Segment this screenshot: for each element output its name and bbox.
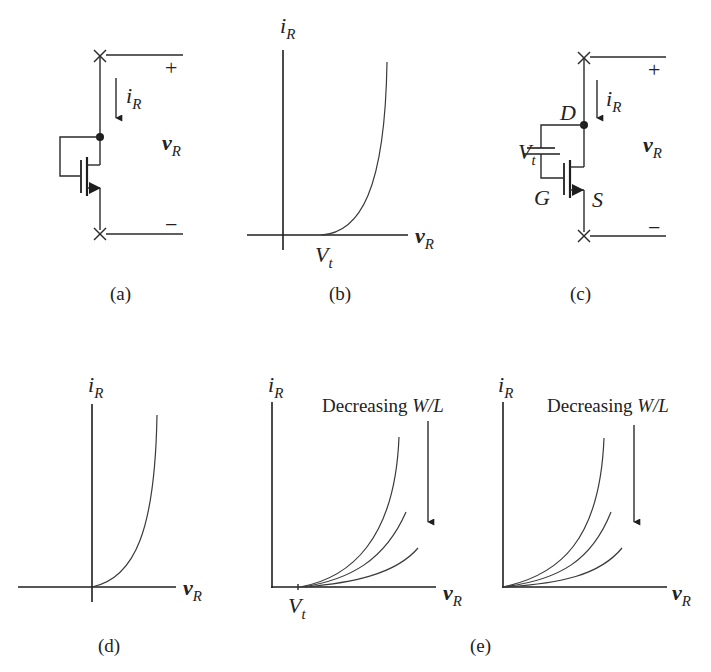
x-axis-label: vR	[443, 580, 462, 609]
y-axis-label: iR	[498, 372, 513, 401]
gate-drain-connection	[60, 137, 100, 176]
curve-high-wl	[300, 437, 399, 587]
panel-d-plot: iR vR (d)	[18, 372, 202, 657]
panel-b-plot: iR vR Vt (b)	[247, 13, 434, 305]
panel-c-circuit: iR D Vt G S + vR − (c)	[518, 52, 666, 305]
caption-b: (b)	[329, 283, 351, 305]
plus-sign: +	[648, 57, 660, 82]
iv-curve	[92, 415, 157, 587]
x-axis-label: vR	[183, 575, 202, 604]
curve-mid-wl	[302, 512, 406, 587]
mosfet-icon	[564, 160, 584, 198]
minus-sign: −	[165, 212, 177, 237]
caption-d: (d)	[98, 635, 120, 657]
battery-to-gate-wire	[541, 154, 563, 178]
threshold-label: Vt	[315, 242, 333, 271]
panel-a-circuit: iR + vR − (a)	[60, 50, 183, 305]
drain-label: D	[559, 100, 576, 125]
y-axis-label: iR	[88, 372, 103, 401]
annotation-decreasing-wl: Decreasing W/L	[322, 395, 444, 416]
current-label: iR	[606, 86, 621, 115]
caption-c: (c)	[570, 283, 591, 305]
current-label: iR	[126, 83, 141, 112]
annotation-decreasing-wl: Decreasing W/L	[547, 395, 669, 416]
source-label: S	[592, 187, 603, 212]
caption-e: (e)	[470, 635, 491, 657]
caption-a: (a)	[110, 283, 131, 305]
voltage-label: vR	[162, 130, 181, 159]
plus-sign: +	[165, 55, 177, 80]
minus-sign: −	[648, 215, 660, 240]
iv-curve	[321, 62, 387, 235]
voltage-label: vR	[643, 132, 662, 161]
battery-label: Vt	[518, 139, 536, 168]
panel-e-left-plot: iR vR Vt Decreasing W/L	[268, 372, 462, 622]
figure-canvas: iR + vR − (a) iR vR Vt (b)	[0, 0, 711, 672]
y-axis-label: iR	[280, 13, 295, 42]
gate-label: G	[534, 185, 550, 210]
curve-low-wl	[503, 548, 622, 587]
curve-mid-wl	[503, 512, 611, 587]
threshold-label: Vt	[288, 593, 306, 622]
curve-high-wl	[503, 438, 604, 587]
panel-e-right-plot: iR vR Decreasing W/L	[498, 372, 691, 609]
x-axis-label: vR	[672, 580, 691, 609]
drain-to-battery-wire	[541, 125, 584, 148]
y-axis-label: iR	[268, 372, 283, 401]
mosfet-icon	[81, 157, 101, 196]
x-axis-label: vR	[415, 223, 434, 252]
